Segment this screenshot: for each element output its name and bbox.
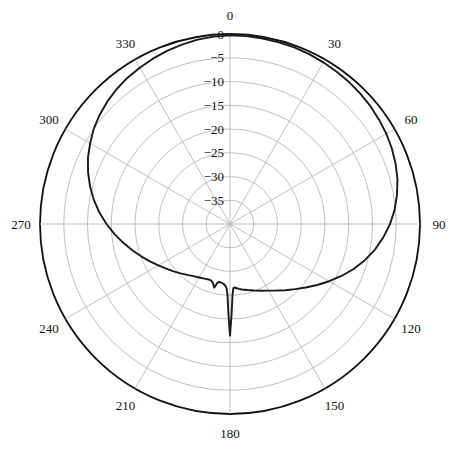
radial-tick-label: −10 xyxy=(204,74,224,89)
grid-spoke xyxy=(230,59,325,224)
grid-spoke xyxy=(135,224,230,389)
angular-gridlines xyxy=(40,34,420,414)
angle-tick-label-330: 330 xyxy=(116,36,136,51)
radial-tick-label: −20 xyxy=(204,122,224,137)
angle-tick-label-300: 300 xyxy=(39,112,59,127)
radial-tick-label: −35 xyxy=(204,193,224,208)
polar-chart-container: 0−5−10−15−20−25−30−35 030609012015018021… xyxy=(0,0,451,450)
pattern-curve xyxy=(88,35,398,335)
angle-tick-label-270: 270 xyxy=(11,217,31,232)
radial-tick-label: −25 xyxy=(204,145,224,160)
polar-plot: 0−5−10−15−20−25−30−35 030609012015018021… xyxy=(0,0,451,450)
radial-tick-label: −5 xyxy=(210,50,224,65)
angle-tick-label-180: 180 xyxy=(220,426,240,441)
radial-tick-label: −15 xyxy=(204,98,224,113)
angle-tick-label-150: 150 xyxy=(325,398,345,413)
data-series-pattern xyxy=(88,35,398,335)
angle-tick-label-0: 0 xyxy=(227,8,234,23)
grid-spoke xyxy=(230,224,325,389)
angle-tick-label-120: 120 xyxy=(401,321,421,336)
radial-tick-label: −30 xyxy=(204,169,224,184)
angle-tick-label-240: 240 xyxy=(39,321,59,336)
angle-tick-label-210: 210 xyxy=(116,398,136,413)
angle-tick-label-90: 90 xyxy=(433,217,446,232)
angle-tick-label-30: 30 xyxy=(328,36,341,51)
grid-spoke xyxy=(230,224,395,319)
grid-spoke xyxy=(230,129,395,224)
radial-axis-labels: 0−5−10−15−20−25−30−35 xyxy=(204,27,224,208)
radial-tick-label: 0 xyxy=(218,27,225,42)
angle-tick-label-60: 60 xyxy=(405,112,418,127)
grid-spoke xyxy=(65,224,230,319)
